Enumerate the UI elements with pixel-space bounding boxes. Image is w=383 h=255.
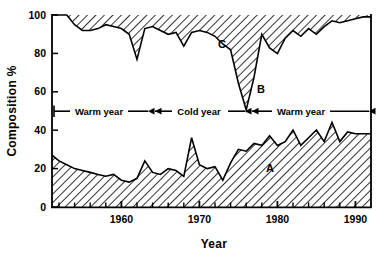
x-tick-label-1980: 1980 [266,213,290,225]
region-label-a: A [266,162,274,174]
y-tick-label-80: 80 [34,47,46,59]
y-tick-label-0: 0 [40,201,46,213]
region-label-c: C [218,38,226,50]
x-tick-label-1990: 1990 [344,213,368,225]
y-tick-label-60: 60 [34,85,46,97]
x-tick-label-1970: 1970 [188,213,212,225]
region-label-b: B [257,83,265,95]
x-axis-title: Year [201,237,228,251]
x-tick-label-1960: 1960 [110,213,134,225]
y-axis-title: Composition % [5,65,19,156]
annotation-label-2: Cold year [177,106,221,117]
composition-area-chart: 100 80 60 40 20 0 [0,0,383,255]
chart-figure: 100 80 60 40 20 0 [0,0,383,255]
y-tick-label-20: 20 [34,162,46,174]
y-tick-label-100: 100 [28,9,46,21]
annotation-label-3: Warm year [277,106,326,117]
y-tick-label-40: 40 [34,124,46,136]
annotation-label-1: Warm year [75,106,124,117]
